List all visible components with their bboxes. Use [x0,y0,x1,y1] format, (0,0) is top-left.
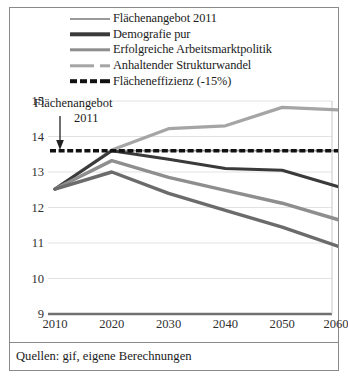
x-axis-tick: 2060 [323,318,348,331]
figure-container: Flächenangebot 2011 Demografie pur Erfol… [0,0,348,379]
legend-swatch-flacheneffizienz [70,75,110,87]
y-axis-ticks: 15 14 13 12 11 10 9 [10,92,44,337]
y-axis-tick: 9 [18,308,44,321]
legend-item: Anhaltender Strukturwandel [70,58,332,74]
chart-plot-area: 15 14 13 12 11 10 9 [10,92,338,337]
caption-divider [9,342,339,343]
down-arrow-icon [56,116,64,150]
legend-label: Flächeneffizienz (-15%) [113,74,231,89]
y-axis-tick: 12 [18,201,44,214]
legend-label: Flächenangebot 2011 [113,11,217,26]
x-axis-ticks: 2010 2020 2030 2040 2050 2060 [48,318,338,338]
legend-label: Anhaltender Strukturwandel [113,58,251,73]
legend-label: Erfolgreiche Arbeitsmarktpolitik [113,42,272,57]
y-axis-tick: 13 [18,166,44,179]
series-erfolgreiche-arbeitsmarktpolitik [55,161,338,220]
y-axis-tick: 14 [18,130,44,143]
x-axis-tick: 2040 [213,318,238,331]
legend-swatch-erfolgreiche-arbeitsmarktpolitik [70,44,110,56]
chart-svg [10,92,338,337]
legend-swatch-anhaltender-strukturwandel [70,60,110,72]
legend-swatch-demografie-pur [70,28,110,40]
legend-item: Flächenangebot 2011 [70,11,332,27]
y-axis-tick: 11 [18,237,44,250]
legend-item: Flächeneffizienz (-15%) [70,73,332,89]
figure-caption: Quellen: gif, eigene Berechnungen [16,349,192,364]
x-axis-tick: 2050 [270,318,295,331]
legend-swatch-flachenangebot-2011 [70,13,110,25]
x-axis-tick: 2010 [42,318,67,331]
legend-label: Demografie pur [113,27,190,42]
legend-item: Erfolgreiche Arbeitsmarktpolitik [70,42,332,58]
annotation-line-1: Flächenangebot [34,97,112,111]
x-axis-tick: 2020 [99,318,124,331]
x-axis-tick: 2030 [156,318,181,331]
chart-legend: Flächenangebot 2011 Demografie pur Erfol… [70,11,332,89]
legend-item: Demografie pur [70,27,332,43]
y-axis-tick: 10 [18,272,44,285]
annotation-line-2: 2011 [74,112,98,126]
